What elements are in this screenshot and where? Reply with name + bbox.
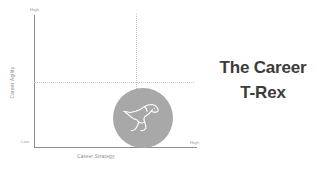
x-axis-line <box>34 147 197 148</box>
x-axis-high-label: High <box>190 140 199 145</box>
trex-icon <box>122 101 164 135</box>
career-quadrant-chart: High Low High Career Strategy Career Agi… <box>0 0 210 172</box>
y-axis-low-label: Low <box>21 139 29 144</box>
x-axis-title: Career Strategy <box>77 154 115 159</box>
y-axis-high-label: High <box>30 7 39 12</box>
title-line-1: The Career <box>212 56 314 81</box>
title-line-2: T-Rex <box>212 81 314 106</box>
horizontal-gridline <box>34 82 194 83</box>
page-title: The Career T-Rex <box>212 56 314 105</box>
y-axis-title: Career Agility <box>10 66 15 98</box>
slide-canvas: High Low High Career Strategy Career Agi… <box>0 0 318 172</box>
data-point-trex <box>113 88 173 148</box>
